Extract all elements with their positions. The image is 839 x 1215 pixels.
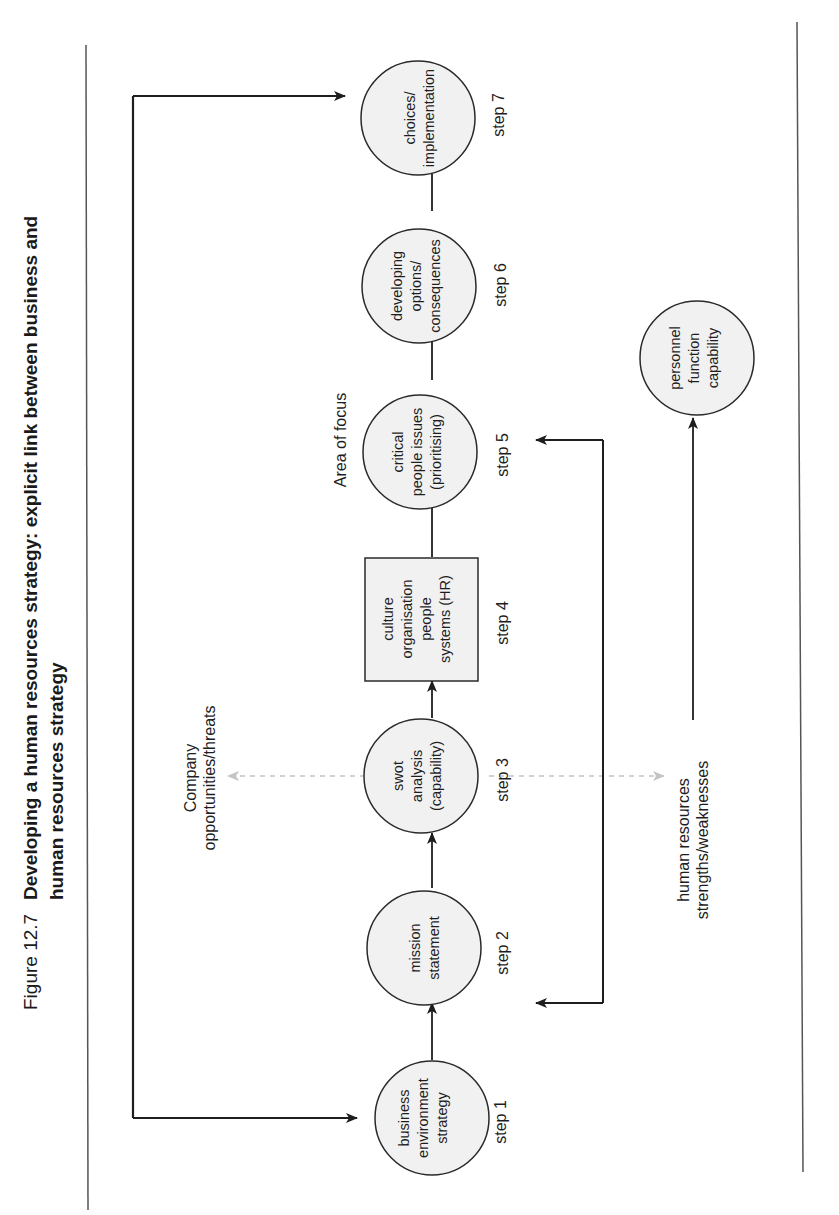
svg-text:options/: options/ [408,260,424,312]
step-1-label: step 1 [492,1100,509,1144]
step-1-node: business environment strategy [375,1061,489,1175]
step-2-node: mission statement [367,891,481,1005]
personnel-node: personnel function capability [640,301,754,415]
svg-text:environment: environment [415,1078,431,1158]
company-label-line1: Company [182,744,199,812]
svg-text:consequences: consequences [427,239,443,333]
left-page-rule [86,45,88,1210]
area-of-focus-label: Area of focus [332,393,349,487]
hr-label-line2: strengths/weaknesses [694,761,711,919]
svg-text:strategy: strategy [434,1091,450,1143]
svg-text:swot: swot [390,761,406,791]
figure-number: Figure 12.7 [20,914,41,1010]
figure-title-line1: Developing a human resources strategy: e… [20,216,41,900]
svg-text:choices/: choices/ [402,90,418,144]
step-6-node: developing options/ consequences [362,229,476,343]
step-4-node: culture organisation people systems (HR) [365,558,478,681]
svg-text:capability: capability [705,327,721,388]
svg-text:people: people [418,597,434,641]
hr-bracket-arrow [536,440,603,1003]
svg-text:organisation: organisation [399,580,415,659]
svg-text:personnel: personnel [667,326,683,390]
company-label-line2: opportunities/threats [201,706,218,851]
svg-text:statement: statement [426,916,442,980]
svg-text:developing: developing [389,251,405,321]
diagram-canvas: Figure 12.7 Developing a human resources… [0,0,839,1215]
right-page-rule [797,22,803,1172]
svg-text:culture: culture [380,597,396,641]
step-5-label: step 5 [494,433,511,477]
svg-text:implementation: implementation [421,69,437,167]
step-6-label: step 6 [492,263,509,307]
svg-text:function: function [686,333,702,384]
step-7-label: step 7 [490,93,507,137]
step-2-label: step 2 [494,931,511,975]
svg-text:(prioritising): (prioritising) [428,414,444,490]
step-3-label: step 3 [494,758,511,802]
svg-text:(capability): (capability) [428,741,444,811]
svg-text:mission: mission [407,923,423,972]
step-3-node: swot analysis (capability) [364,719,478,833]
figure-caption: Figure 12.7 Developing a human resources… [20,216,67,1010]
feedback-loop-arrow [133,96,357,1118]
svg-text:systems (HR): systems (HR) [437,575,453,663]
svg-text:critical: critical [390,431,406,472]
svg-text:business: business [396,1089,412,1146]
figure-title-line2: human resources strategy [46,662,67,900]
svg-text:people issues: people issues [409,408,425,497]
step-7-node: choices/ implementation [361,61,475,175]
hr-label-line1: human resources [675,778,692,902]
svg-text:analysis: analysis [409,750,425,802]
step-5-node: critical people issues (prioritising) [363,395,477,509]
step-4-label: step 4 [494,601,511,645]
